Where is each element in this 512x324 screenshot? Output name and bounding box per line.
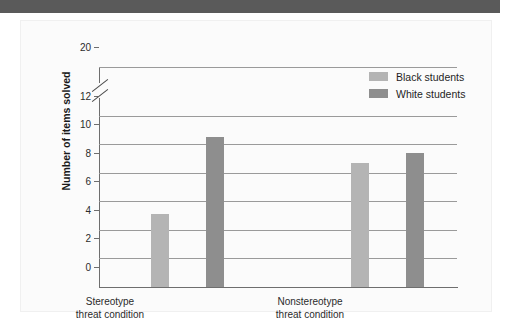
x-group-label-stereotype: Stereotype threat condition bbox=[30, 295, 190, 321]
x-group-label-nonstereotype-line2: threat condition bbox=[230, 308, 390, 321]
x-axis-line bbox=[99, 287, 458, 288]
y-tick-label-2: 2 bbox=[51, 233, 91, 244]
gridline-8 bbox=[99, 173, 457, 174]
x-group-label-stereotype-line2: threat condition bbox=[30, 308, 190, 321]
bar-nonstereotype-black-students[interactable] bbox=[351, 163, 369, 287]
x-group-label-nonstereotype-line1: Nonstereotype bbox=[277, 296, 342, 307]
y-tick-label-0: 0 bbox=[51, 262, 91, 273]
legend-item-black-students[interactable]: Black students bbox=[369, 69, 509, 84]
gridline-10 bbox=[99, 144, 457, 145]
y-tick-mark-20 bbox=[94, 47, 99, 48]
bar-stereotype-black-students[interactable] bbox=[151, 214, 169, 287]
top-header-band bbox=[0, 0, 500, 13]
y-axis-title: Number of items solved bbox=[60, 46, 72, 216]
chart-figure-panel: 20 12 10 8 6 4 2 0 Number of items solve… bbox=[20, 20, 492, 312]
bar-stereotype-white-students[interactable] bbox=[206, 137, 224, 287]
gridline-20 bbox=[99, 67, 457, 68]
legend-item-white-students[interactable]: White students bbox=[369, 86, 509, 101]
x-group-label-nonstereotype: Nonstereotype threat condition bbox=[230, 295, 390, 321]
bar-nonstereotype-white-students[interactable] bbox=[406, 153, 424, 287]
legend-swatch-white-students bbox=[369, 89, 388, 98]
gridline-12 bbox=[99, 116, 457, 117]
legend-label-white-students: White students bbox=[396, 88, 465, 100]
x-group-label-stereotype-line1: Stereotype bbox=[86, 296, 134, 307]
figure-page: 20 12 10 8 6 4 2 0 Number of items solve… bbox=[0, 0, 512, 324]
chart-legend: Black students White students bbox=[369, 69, 509, 103]
gridline-6 bbox=[99, 201, 457, 202]
legend-swatch-black-students bbox=[369, 72, 388, 81]
legend-label-black-students: Black students bbox=[396, 71, 464, 83]
